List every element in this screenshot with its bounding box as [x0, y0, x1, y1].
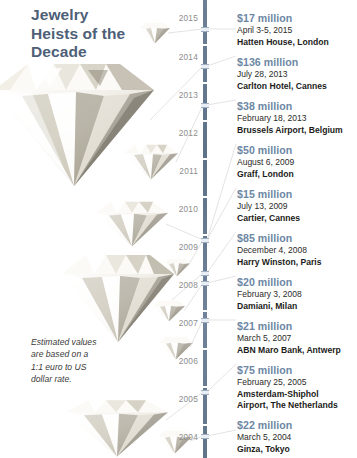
heist-date: April 3-5, 2015: [237, 25, 357, 37]
gem-2009-graff: [93, 200, 171, 248]
heist-place: Amsterdam-Shiphol Airport, The Netherlan…: [237, 389, 357, 412]
heist-entry-ginza[interactable]: $22 million March 5, 2004 Ginza, Tokyo: [237, 419, 357, 455]
heist-amount: $21 million: [237, 320, 357, 333]
heist-amount: $75 million: [237, 364, 357, 377]
timeline-node[interactable]: [201, 64, 209, 69]
page-title: Jewelry Heists of the Decade: [31, 6, 161, 62]
gem-2013-carlton-hotel: [0, 60, 160, 188]
heist-date: December 4, 2008: [237, 245, 357, 257]
heist-date: March 5, 2007: [237, 333, 357, 345]
heist-amount: $38 million: [237, 100, 357, 113]
heist-entry-brussels-airport[interactable]: $38 million February 18, 2013 Brussels A…: [237, 100, 357, 136]
heist-entry-cartier[interactable]: $15 million July 13, 2009 Cartier, Canne…: [237, 188, 357, 224]
axis-gap: [203, 120, 207, 122]
year-label-2013: 2013: [164, 90, 198, 100]
year-label-2014: 2014: [164, 52, 198, 62]
heist-date: February 18, 2013: [237, 113, 357, 125]
heist-place: Damiani, Milan: [237, 301, 357, 313]
heist-date: July 28, 2013: [237, 69, 357, 81]
year-label-2011: 2011: [164, 166, 198, 176]
heist-amount: $85 million: [237, 232, 357, 245]
heist-amount: $17 million: [237, 12, 357, 25]
heist-date: July 13, 2009: [237, 201, 357, 213]
heist-date: March 5, 2004: [237, 432, 357, 444]
heist-date: February 3, 2008: [237, 289, 357, 301]
heist-entry-hatten-house[interactable]: $17 million April 3-5, 2015 Hatten House…: [237, 12, 357, 48]
timeline-node[interactable]: [201, 281, 209, 286]
timeline-node[interactable]: [201, 27, 209, 32]
heist-entry-carlton-hotel[interactable]: $136 million July 28, 2013 Carlton Hotel…: [237, 56, 357, 92]
year-label-2012: 2012: [164, 128, 198, 138]
heist-entry-damiani[interactable]: $20 million February 3, 2008 Damiani, Mi…: [237, 276, 357, 312]
axis-gap: [203, 348, 207, 350]
heist-entry-harry-winston[interactable]: $85 million December 4, 2008 Harry Winst…: [237, 232, 357, 268]
heist-date: August 6, 2009: [237, 157, 357, 169]
axis-gap: [203, 424, 207, 426]
footnote-note: Estimated values are based on a 1:1 euro…: [31, 336, 153, 386]
heist-place: Cartier, Cannes: [237, 213, 357, 225]
year-label-2015: 2015: [164, 13, 198, 23]
timeline-node[interactable]: [201, 103, 209, 108]
heist-place: Carlton Hotel, Cannes: [237, 81, 357, 93]
heist-amount: $136 million: [237, 56, 357, 69]
year-label-2005: 2005: [164, 394, 198, 404]
timeline-node[interactable]: [201, 271, 209, 276]
heist-entry-schiphol-airport[interactable]: $75 million February 25, 2005 Amsterdam-…: [237, 364, 357, 412]
heist-place: Ginza, Tokyo: [237, 444, 357, 456]
axis-gap: [203, 82, 207, 84]
timeline-node[interactable]: [201, 390, 209, 395]
gem-2008-harry-winston: [58, 252, 178, 344]
year-label-2007: 2007: [164, 318, 198, 328]
heist-entry-graff[interactable]: $50 million August 6, 2009 Graff, London: [237, 144, 357, 180]
heist-amount: $50 million: [237, 144, 357, 157]
gem-2009-cartier: [163, 258, 191, 277]
axis-gap: [203, 44, 207, 46]
axis-gap: [203, 158, 207, 160]
axis-gap: [203, 386, 207, 388]
heist-amount: $20 million: [237, 276, 357, 289]
heist-place: ABN Maro Bank, Antwerp: [237, 345, 357, 357]
heist-place: Harry Winston, Paris: [237, 257, 357, 269]
heist-place: Graff, London: [237, 169, 357, 181]
timeline-node[interactable]: [201, 318, 209, 323]
timeline-node[interactable]: [201, 238, 209, 243]
heist-amount: $22 million: [237, 419, 357, 432]
axis-gap: [203, 310, 207, 312]
heist-entry-abn-maro-bank[interactable]: $21 million March 5, 2007 ABN Maro Bank,…: [237, 320, 357, 356]
axis-gap: [203, 196, 207, 198]
axis-gap: [203, 234, 207, 236]
timeline-node[interactable]: [201, 434, 209, 439]
heist-date: February 25, 2005: [237, 377, 357, 389]
heist-place: Hatten House, London: [237, 37, 357, 49]
heist-amount: $15 million: [237, 188, 357, 201]
gem-2005-schiphol: [62, 398, 172, 458]
year-label-2008: 2008: [164, 280, 198, 290]
year-label-2004: 2004: [164, 432, 198, 442]
year-label-2010: 2010: [164, 204, 198, 214]
jewelry-heists-infographic: 2015 2014 2013 2012 2011 2010 2009 2008 …: [0, 0, 357, 458]
year-label-2009: 2009: [164, 242, 198, 252]
heist-place: Brussels Airport, Belgium: [237, 125, 357, 137]
year-label-2006: 2006: [164, 356, 198, 366]
